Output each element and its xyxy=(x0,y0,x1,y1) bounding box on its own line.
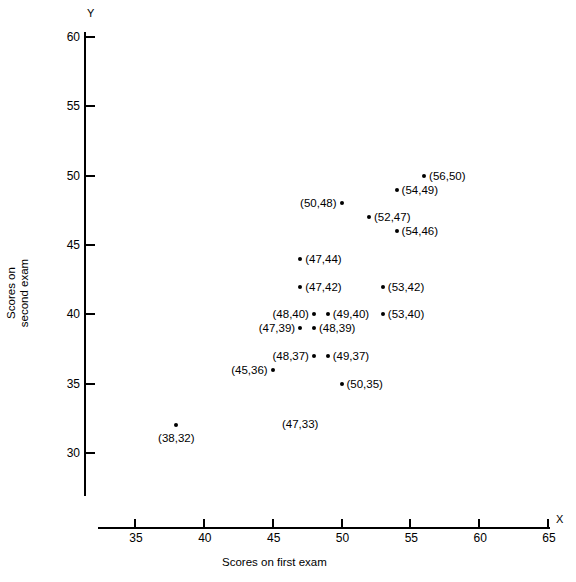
data-point xyxy=(298,257,302,261)
data-point-label: (47,33) xyxy=(282,418,318,430)
data-point xyxy=(312,326,316,330)
x-tick-mark xyxy=(409,519,411,528)
y-tick-label: 40 xyxy=(52,308,80,320)
x-tick-label: 55 xyxy=(394,531,428,545)
y-tick-mark xyxy=(86,244,95,246)
y-tick-label: 60 xyxy=(52,31,80,43)
y-tick-label: 45 xyxy=(52,239,80,251)
scatter-plot-figure: Y X Scores onsecond exam Scores on first… xyxy=(0,0,576,582)
x-axis-letter: X xyxy=(556,514,563,525)
data-point xyxy=(340,201,344,205)
data-point xyxy=(271,368,275,372)
x-tick-label: 65 xyxy=(532,531,566,545)
x-tick-mark xyxy=(134,519,136,528)
data-point xyxy=(298,326,302,330)
data-point xyxy=(422,174,426,178)
data-point xyxy=(312,354,316,358)
data-point-label: (54,49) xyxy=(402,184,438,196)
x-axis-title: Scores on first exam xyxy=(222,556,327,569)
data-point xyxy=(395,229,399,233)
x-axis-line xyxy=(98,527,550,529)
x-tick-label: 60 xyxy=(463,531,497,545)
y-tick-label: 30 xyxy=(52,447,80,459)
y-tick-label: 55 xyxy=(52,100,80,112)
data-point-label: (49,37) xyxy=(333,350,369,362)
data-point xyxy=(174,423,178,427)
data-point-label: (38,32) xyxy=(158,432,194,444)
data-point xyxy=(298,285,302,289)
y-tick-mark xyxy=(86,452,95,454)
y-tick-mark xyxy=(86,383,95,385)
y-tick-label: 50 xyxy=(52,170,80,182)
data-point-label: (49,40) xyxy=(333,308,369,320)
data-point-label: (52,47) xyxy=(374,211,410,223)
y-axis-letter: Y xyxy=(87,8,94,19)
data-point-label: (48,40) xyxy=(273,308,309,320)
x-tick-mark xyxy=(203,519,205,528)
data-point xyxy=(340,382,344,386)
data-point-label: (53,42) xyxy=(388,281,424,293)
data-point xyxy=(381,285,385,289)
data-point-label: (48,37) xyxy=(273,350,309,362)
data-point-label: (47,39) xyxy=(259,322,295,334)
y-tick-mark xyxy=(86,36,95,38)
data-point-label: (54,46) xyxy=(402,225,438,237)
x-tick-mark xyxy=(272,519,274,528)
x-tick-label: 45 xyxy=(257,531,291,545)
data-point xyxy=(326,354,330,358)
x-tick-label: 40 xyxy=(188,531,222,545)
data-point-label: (56,50) xyxy=(429,170,465,182)
x-tick-label: 50 xyxy=(326,531,360,545)
y-axis-line xyxy=(84,32,86,496)
data-point xyxy=(381,312,385,316)
y-tick-mark xyxy=(86,313,95,315)
data-point xyxy=(326,312,330,316)
y-tick-mark xyxy=(86,105,95,107)
x-tick-mark xyxy=(478,519,480,528)
y-tick-mark xyxy=(86,175,95,177)
x-tick-mark xyxy=(547,519,549,528)
data-point-label: (48,39) xyxy=(319,322,355,334)
data-point xyxy=(367,215,371,219)
x-tick-mark xyxy=(341,519,343,528)
y-axis-title: Scores onsecond exam xyxy=(5,243,31,343)
x-tick-label: 35 xyxy=(119,531,153,545)
y-tick-label: 35 xyxy=(52,378,80,390)
data-point-label: (53,40) xyxy=(388,308,424,320)
data-point-label: (47,44) xyxy=(305,253,341,265)
data-point xyxy=(312,312,316,316)
data-point-label: (50,48) xyxy=(300,197,336,209)
data-point-label: (47,42) xyxy=(305,281,341,293)
data-point-label: (50,35) xyxy=(347,378,383,390)
data-point-label: (45,36) xyxy=(231,364,267,376)
data-point xyxy=(395,188,399,192)
